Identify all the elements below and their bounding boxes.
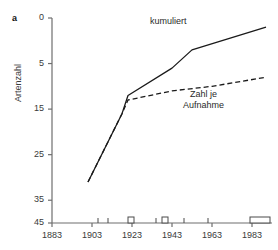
y-tick-label: 25 (22, 149, 44, 159)
sampling-box (162, 217, 168, 223)
x-tick-label: 1883 (32, 230, 72, 240)
y-tick-label: 35 (22, 194, 44, 204)
series-zahl-je-aufnahme-line (88, 77, 266, 182)
series-label-zahl-je-aufnahme: Zahl je Aufnahme (183, 89, 224, 111)
x-tick-label: 1983 (232, 230, 272, 240)
sampling-box (128, 217, 134, 223)
series-label-kumuliert: kumuliert (150, 16, 187, 27)
y-tick-label: 0 (22, 12, 44, 22)
x-tick-label: 1943 (152, 230, 192, 240)
series-label-zahl-line2: Aufnahme (183, 100, 224, 111)
panel-letter: a (12, 13, 17, 23)
axis-lines (52, 18, 272, 223)
chart-plot-area (0, 0, 278, 250)
series-kumuliert-line (88, 27, 266, 182)
x-tick-label: 1923 (112, 230, 152, 240)
y-tick-label: 5 (22, 58, 44, 68)
sampling-period-markers (98, 217, 270, 223)
x-tick-marks (52, 223, 252, 227)
y-tick-label: 15 (22, 103, 44, 113)
series-label-zahl-line1: Zahl je (183, 89, 224, 100)
x-tick-label: 1903 (72, 230, 112, 240)
chart-figure: a Artenzahl 4535251550 18831903192319431… (0, 0, 278, 250)
y-tick-label: 45 (22, 217, 44, 227)
sampling-box (250, 217, 270, 223)
x-tick-label: 1963 (192, 230, 232, 240)
